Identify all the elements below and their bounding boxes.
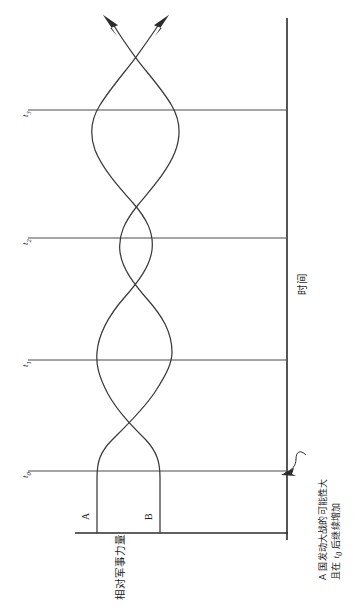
time-axis-label: 时间 (294, 273, 309, 295)
power-axis-label: 相对军事力量 (112, 534, 127, 600)
series-label-a: A (80, 513, 91, 520)
annotation-leader-line (285, 452, 306, 473)
curve-series-a (97, 24, 179, 533)
tick-label-t3: t3 (20, 111, 32, 117)
tick-label-t1: t1 (20, 361, 32, 367)
series-label-b: B (143, 513, 154, 520)
arrowhead-series-b (153, 13, 169, 37)
arrowhead-series-a (103, 13, 119, 37)
tick-label-t2: t2 (20, 239, 32, 245)
diagram-svg (0, 0, 355, 610)
annotation-line-2: 且在 t0 后继续增加 (330, 503, 346, 580)
curve-series-b (92, 24, 160, 533)
annotation-line-1: A 国发动大战的可能性大 (317, 479, 329, 580)
figure-canvas: t3 t2 t1 t0 A B 相对军事力量 时间 A 国发动大战的可能性大 且… (0, 0, 355, 610)
tick-label-t0: t0 (20, 472, 32, 478)
annotation-leader-arrowhead (281, 468, 296, 476)
